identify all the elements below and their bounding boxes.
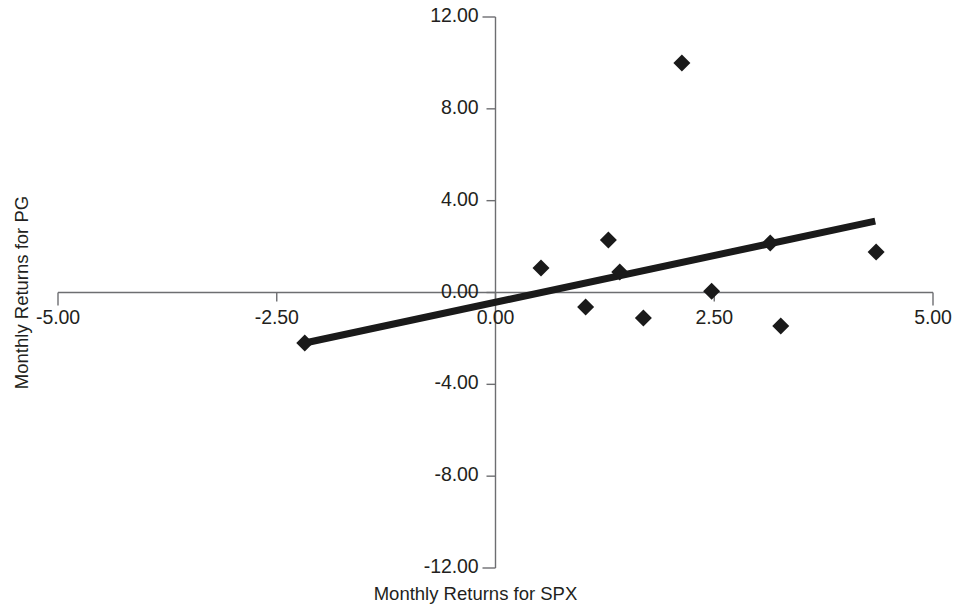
data-point-marker	[673, 54, 690, 71]
x-axis-tick-label: -2.50	[217, 306, 337, 329]
data-point-marker	[635, 309, 652, 326]
data-point-marker	[772, 318, 789, 335]
y-axis-tick-label: -8.00	[435, 463, 479, 486]
x-axis-title: Monthly Returns for SPX	[0, 583, 951, 605]
x-axis-tick-label: 5.00	[873, 306, 956, 329]
data-point-marker	[296, 335, 313, 352]
data-point-marker	[762, 234, 779, 251]
data-point-marker	[600, 231, 617, 248]
x-axis-tick-label: 0.00	[436, 306, 556, 329]
data-point-marker	[533, 259, 550, 276]
data-points	[296, 54, 884, 351]
x-axis-tick-label: 2.50	[654, 306, 774, 329]
y-axis-tick-label: 8.00	[441, 96, 479, 119]
trendline	[305, 221, 876, 343]
y-axis-tick-label: -4.00	[435, 371, 479, 394]
y-axis-tick-label: 4.00	[441, 188, 479, 211]
y-axis-title: Monthly Returns for PG	[11, 196, 33, 389]
data-point-marker	[868, 244, 885, 261]
trendline-segment	[305, 221, 876, 343]
y-axis-tick-label: 12.00	[430, 4, 478, 27]
y-axis-tick-label: 0.00	[441, 280, 479, 303]
data-point-marker	[577, 298, 594, 315]
axes-group	[58, 17, 933, 568]
y-axis-tick-label: -12.00	[424, 555, 479, 578]
data-point-marker	[703, 283, 720, 300]
